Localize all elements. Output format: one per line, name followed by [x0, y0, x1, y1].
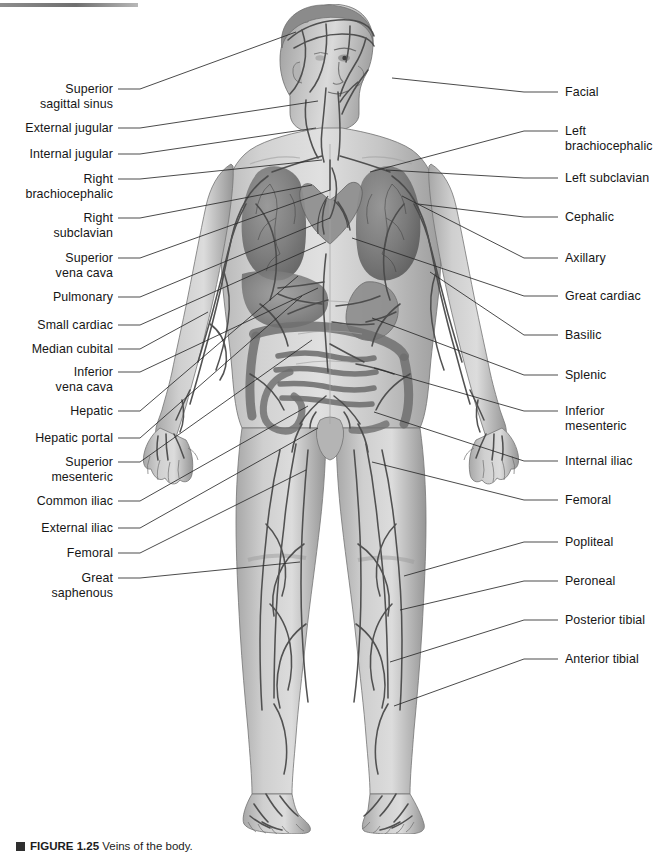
label-superior-sagittal-sinus: Superior sagittal sinus [38, 82, 113, 111]
label-external-iliac: External iliac [29, 521, 113, 536]
label-great-cardiac: Great cardiac [565, 289, 656, 304]
label-cephalic: Cephalic [565, 210, 656, 225]
caption-bullet-icon [16, 842, 25, 851]
label-pulmonary: Pulmonary [42, 290, 113, 305]
label-splenic: Splenic [565, 368, 656, 383]
label-hepatic-portal: Hepatic portal [24, 431, 113, 446]
human-body-venous-anatomy-illustration [130, 4, 530, 834]
label-facial: Facial [565, 85, 656, 100]
label-femoral-left: Femoral [54, 546, 113, 561]
label-basilic: Basilic [565, 328, 656, 343]
label-left-brachiocephalic: Left brachiocephalic [565, 124, 656, 153]
label-right-brachiocephalic: Right brachiocephalic [18, 172, 113, 201]
label-hepatic: Hepatic [54, 404, 113, 419]
label-right-subclavian: Right subclavian [38, 211, 113, 240]
label-popliteal: Popliteal [565, 535, 656, 550]
label-anterior-tibial: Anterior tibial [565, 652, 656, 667]
figure-caption: FIGURE 1.25 Veins of the body. [16, 840, 636, 854]
label-axillary: Axillary [565, 251, 656, 266]
caption-body: Veins of the body. [102, 840, 193, 852]
label-superior-mesenteric: Superior mesenteric [38, 455, 113, 484]
label-femoral-right: Femoral [565, 493, 656, 508]
label-great-saphenous: Great saphenous [38, 571, 113, 600]
label-external-jugular: External jugular [18, 121, 113, 136]
caption-label: FIGURE 1.25 [30, 840, 99, 852]
label-left-subclavian: Left subclavian [565, 171, 656, 186]
label-internal-iliac: Internal iliac [565, 454, 656, 469]
label-small-cardiac: Small cardiac [28, 318, 113, 333]
label-inferior-mesenteric: Inferior mesenteric [565, 404, 656, 433]
label-internal-jugular: Internal jugular [22, 147, 113, 162]
label-inferior-vena-cava: Inferior vena cava [38, 365, 113, 394]
label-superior-vena-cava: Superior vena cava [38, 251, 113, 280]
label-median-cubital: Median cubital [22, 342, 113, 357]
label-peroneal: Peroneal [565, 574, 656, 589]
label-common-iliac: Common iliac [28, 494, 113, 509]
label-posterior-tibial: Posterior tibial [565, 613, 656, 628]
figure-stage: Superior sagittal sinusExternal jugularI… [0, 0, 660, 854]
